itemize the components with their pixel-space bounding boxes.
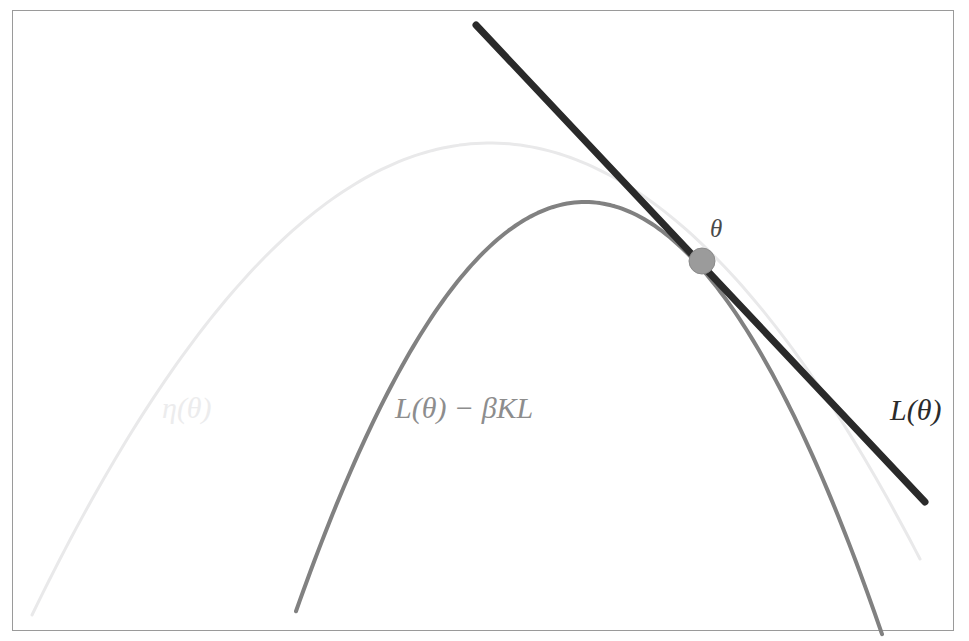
label-objective-l-theta: L(θ) xyxy=(889,393,941,427)
label-eta-theta: η(θ) xyxy=(162,391,212,425)
label-theta-point: θ xyxy=(710,215,722,242)
figure-border xyxy=(13,11,954,631)
figure-svg: η(θ) L(θ) − βKL L(θ) θ xyxy=(0,0,969,641)
theta-point-marker xyxy=(689,248,715,274)
figure-canvas: η(θ) L(θ) − βKL L(θ) θ xyxy=(0,0,969,641)
label-penalized-objective: L(θ) − βKL xyxy=(394,391,533,425)
